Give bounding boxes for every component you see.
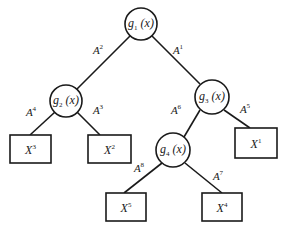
leaf-label-X2: X2	[104, 144, 115, 156]
edge-label-a4-base: A	[26, 106, 33, 118]
leaves	[10, 128, 277, 221]
edge-label-a3: A3	[93, 104, 103, 116]
node-label-g3-arg: (x)	[209, 89, 225, 103]
nodes	[50, 8, 229, 167]
leaf-label-X4-sup: 4	[224, 201, 228, 209]
edge-label-a5-sup: 5	[247, 102, 251, 110]
edge-g1-g2	[77, 36, 130, 89]
edge-label-a6: A6	[171, 104, 181, 116]
leaf-label-X1-sup: 1	[258, 137, 262, 145]
edge-label-a4: A4	[26, 106, 36, 118]
edge-label-a5-base: A	[240, 103, 247, 115]
leaf-label-X4: X4	[217, 202, 228, 214]
edge-label-a2: A2	[93, 44, 103, 56]
edge-label-a8-sup: 8	[141, 161, 145, 169]
edge-label-a7-sup: 7	[220, 169, 224, 177]
leaf-label-X3-sup: 3	[32, 143, 36, 151]
node-label-g4-arg: (x)	[170, 142, 186, 156]
node-label-g2: g2 (x)	[53, 94, 79, 109]
edge-label-a2-sup: 2	[100, 43, 104, 51]
edge-label-a8: A8	[134, 162, 144, 174]
node-label-g1-arg: (x)	[138, 16, 154, 30]
edge-label-a6-sup: 6	[178, 103, 182, 111]
leaf-label-X3: X3	[25, 144, 36, 156]
leaf-label-X1: X1	[251, 138, 262, 150]
edge-label-a1-base: A	[173, 44, 180, 56]
edge-label-a3-base: A	[93, 104, 100, 116]
edge-g3-g4	[184, 110, 200, 137]
edge-label-a3-sup: 3	[100, 103, 104, 111]
node-label-g3: g3 (x)	[199, 90, 225, 105]
edge-label-a7-base: A	[213, 170, 220, 182]
node-label-g1: g1 (x)	[128, 17, 154, 32]
edge-label-a6-base: A	[171, 104, 178, 116]
edge-label-a8-base: A	[134, 162, 141, 174]
edge-label-a1: A1	[173, 44, 183, 56]
decision-tree-canvas	[0, 0, 286, 232]
edge-label-a5: A5	[240, 103, 250, 115]
edge-label-a1-sup: 1	[180, 43, 184, 51]
leaf-label-X5-sup: 5	[128, 201, 132, 209]
node-label-g4: g4 (x)	[160, 143, 186, 158]
leaf-label-X5: X5	[121, 202, 132, 214]
edge-label-a4-sup: 4	[33, 105, 37, 113]
node-label-g2-arg: (x)	[63, 93, 79, 107]
leaf-label-X2-sup: 2	[111, 143, 115, 151]
edge-label-a2-base: A	[93, 44, 100, 56]
edge-label-a7: A7	[213, 170, 223, 182]
